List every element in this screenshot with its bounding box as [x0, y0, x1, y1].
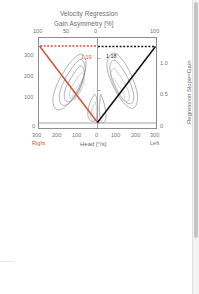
right-tick-1p0: 1.0	[160, 61, 168, 67]
bottom-tick-n100: 100	[72, 133, 81, 139]
right-tick-0: 0	[160, 124, 163, 130]
regression-line-right	[40, 46, 98, 123]
velocity-regression-figure: Velocity Regression Gain Asymmetry [%] 1…	[0, 0, 199, 146]
bottom-tick-100: 100	[111, 133, 120, 139]
top-tick-1: 50	[63, 29, 69, 35]
bottom-tick-300: 300	[150, 133, 159, 139]
left-tick-300: 300	[24, 53, 33, 59]
regression-line-left	[98, 47, 156, 123]
right-tick-0p5: 0.5	[160, 92, 168, 98]
left-tick-200: 200	[24, 74, 33, 80]
top-tick-0: 100	[33, 29, 42, 35]
vertical-scrollbar[interactable]	[192, 0, 199, 294]
top-tick-3: 100	[150, 29, 159, 35]
bottom-tick-n300: 300	[32, 133, 41, 139]
top-tick-2: 0	[94, 29, 97, 35]
left-tick-0: 0	[32, 124, 35, 130]
scrollbar-thumb[interactable]	[194, 2, 198, 238]
page-divider	[0, 261, 14, 262]
left-tick-100: 100	[24, 95, 33, 101]
gain-scatter-figure: Eye [°/s] Gain 1.5 1.0 0.5 0 50 100 150 …	[0, 146, 199, 294]
bottom-tick-n200: 200	[52, 133, 61, 139]
figure-page: Velocity Regression Gain Asymmetry [%] 1…	[0, 0, 199, 294]
bottom-tick-200: 200	[131, 133, 140, 139]
top-plot-canvas	[38, 37, 157, 129]
bottom-tick-0: 0	[95, 133, 98, 139]
top-chart-title: Velocity Regression	[60, 11, 118, 17]
density-contours-left	[107, 53, 138, 108]
top-axis-label: Gain Asymmetry [%]	[54, 21, 114, 27]
